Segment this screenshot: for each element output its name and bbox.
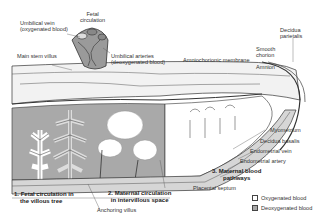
section-3-title: 3. Maternal blood pathways (212, 168, 261, 182)
label-main-stem-villus: Main stem villus (17, 53, 57, 59)
legend-oxygenated: Oxygenated blood (252, 195, 306, 201)
label-endometrial-vein: Endometrial vein (250, 148, 292, 154)
label-fetal-circulation: Fetal circulation (80, 11, 105, 24)
label-decidua-basalis: Decidua basalis (260, 138, 300, 144)
label-umbilical-arteries: Umbilical arteries (deoxygenated blood) (111, 53, 165, 66)
label-decidua-parietalis: Decidua parietalis (280, 27, 302, 40)
deoxygenated-swatch-icon (252, 205, 258, 211)
oxygenated-swatch-icon (252, 195, 258, 201)
legend-deoxygenated: Deoxygenated blood (252, 205, 312, 211)
label-umbilical-vein: Umbilical vein (oxygenated blood) (20, 20, 68, 33)
label-smooth-chorion: Smooth chorion (256, 46, 275, 59)
label-placental-septum: Placental septum (193, 185, 236, 191)
label-amniochorionic-membrane: Amniochorionic membrane (183, 57, 250, 63)
section-2-title: 2. Maternal circulation in intervillous … (108, 190, 171, 204)
label-amnion: Amnion (256, 64, 275, 70)
label-myometrium: Myometrium (270, 127, 301, 133)
section-1-title: 1. Fetal circulation in the villous tree (14, 191, 74, 205)
placenta-diagram: Umbilical vein (oxygenated blood) Fetal … (0, 0, 318, 218)
label-endometrial-artery: Endometrial artery (240, 158, 286, 164)
label-anchoring-villus: Anchoring villus (97, 207, 136, 213)
